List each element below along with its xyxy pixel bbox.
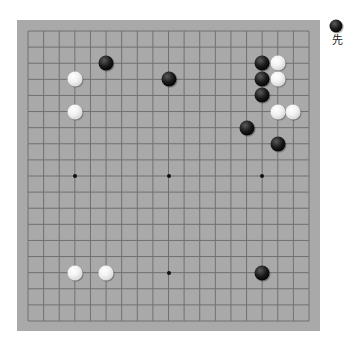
black-stone[interactable] [255, 265, 270, 280]
black-stone[interactable] [99, 56, 114, 71]
black-stone[interactable] [255, 88, 270, 103]
go-board[interactable] [17, 20, 320, 331]
white-stone[interactable] [270, 72, 285, 87]
black-stone[interactable] [255, 72, 270, 87]
white-stone[interactable] [67, 265, 82, 280]
black-stone[interactable] [161, 72, 176, 87]
black-stone-icon [330, 20, 343, 33]
white-stone[interactable] [270, 56, 285, 71]
black-stone[interactable] [255, 56, 270, 71]
turn-label: 先 [326, 35, 346, 47]
white-stone[interactable] [270, 104, 285, 119]
white-stone[interactable] [67, 72, 82, 87]
black-stone[interactable] [239, 120, 254, 135]
white-stone[interactable] [99, 265, 114, 280]
white-stone[interactable] [286, 104, 301, 119]
star-point [260, 174, 264, 178]
white-stone[interactable] [67, 104, 82, 119]
black-stone[interactable] [270, 136, 285, 151]
star-point [73, 174, 77, 178]
star-point [167, 174, 171, 178]
star-point [167, 271, 171, 275]
